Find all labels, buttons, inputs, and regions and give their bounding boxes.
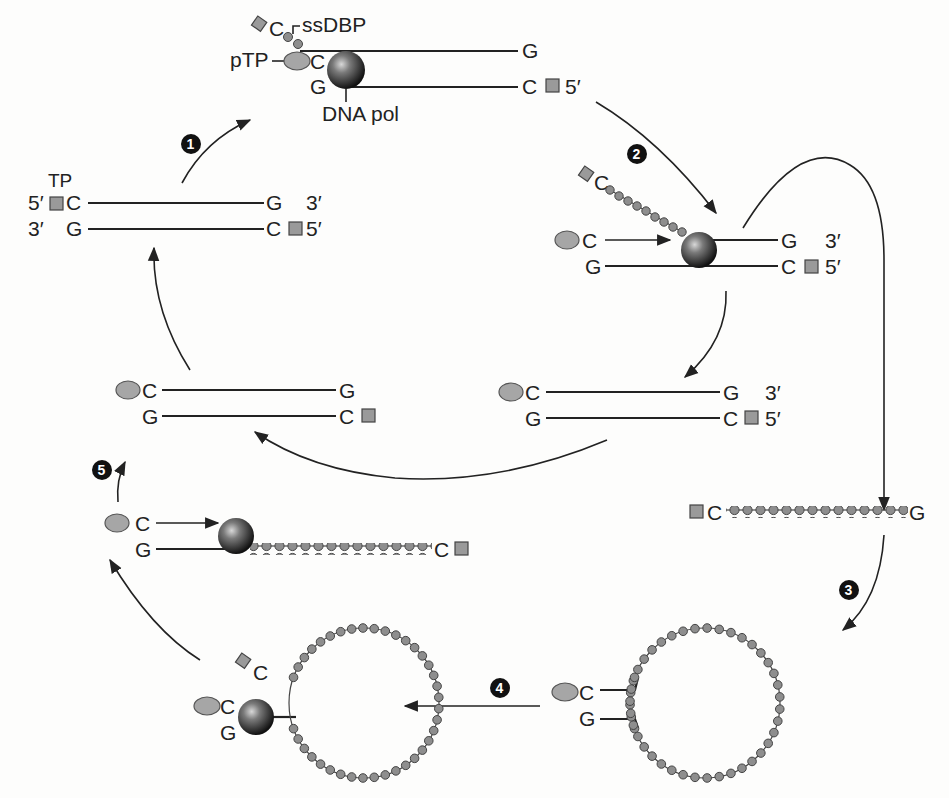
base-c-label: C xyxy=(253,661,268,684)
base-g-label: G xyxy=(522,39,538,62)
terminal-protein-icon xyxy=(578,166,593,181)
base-g-label: G xyxy=(310,75,326,98)
ptp-icon xyxy=(284,52,310,70)
base-c-label: C xyxy=(781,255,796,278)
base-g-label: G xyxy=(66,217,82,240)
daughter-duplex-right: C G 3′ G C 5′ xyxy=(499,381,781,430)
base-g-label: G xyxy=(909,501,925,524)
ssdna-beads xyxy=(726,506,908,518)
base-c-label: C xyxy=(525,381,540,404)
ssdbp-leader-line xyxy=(293,26,300,34)
base-c-label: C xyxy=(582,229,597,252)
svg-text:3: 3 xyxy=(845,582,853,598)
step-4-badge: 4 xyxy=(490,678,510,698)
terminal-protein-icon xyxy=(455,542,468,555)
dna-polymerase-icon xyxy=(681,232,717,268)
step-5-arrow xyxy=(118,462,125,502)
terminal-protein-icon xyxy=(805,260,818,273)
five-prime-label: 5′ xyxy=(825,255,841,278)
svg-text:1: 1 xyxy=(187,136,195,152)
dna-polymerase-icon xyxy=(238,699,274,735)
duplex-transfer-arrow xyxy=(255,432,607,479)
completion-arrow xyxy=(685,291,726,377)
terminal-protein-icon xyxy=(289,222,302,235)
three-prime-label: 3′ xyxy=(765,381,781,404)
displaced-strand-beads xyxy=(606,186,686,236)
base-g-label: G xyxy=(142,405,158,428)
five-prime-label: 5′ xyxy=(306,217,322,240)
ssdbp-bead-icon xyxy=(294,40,303,49)
base-c-label: C xyxy=(220,695,235,718)
ptp-icon xyxy=(555,231,579,249)
replication-cycle-diagram: C ssDBP pTP C G DNA pol G C 5′ TP 5′ C G… xyxy=(0,0,949,798)
panhandle-initiation-complex: C C G xyxy=(194,624,443,783)
base-g-label: G xyxy=(525,407,541,430)
ssdna-beads xyxy=(250,543,432,555)
terminal-protein-icon xyxy=(690,505,703,518)
panhandle-structure: C G xyxy=(552,624,784,783)
base-g-label: G xyxy=(135,538,151,561)
dna-polymerase-icon xyxy=(327,51,365,89)
terminal-protein-icon xyxy=(50,197,63,210)
elongation-complex: C C G G 3′ C 5′ xyxy=(555,166,841,278)
five-prime-label: 5′ xyxy=(765,407,781,430)
ssdbp-label: ssDBP xyxy=(302,13,366,36)
base-c-label: C xyxy=(723,407,738,430)
base-g-label: G xyxy=(781,229,797,252)
three-prime-label: 3′ xyxy=(306,191,322,214)
base-c-label: C xyxy=(434,538,449,561)
dna-polymerase-icon xyxy=(218,518,254,554)
base-c-label: C xyxy=(135,512,150,535)
tp-label: TP xyxy=(48,170,72,191)
base-g-label: G xyxy=(220,721,236,744)
displaced-single-strand: C G xyxy=(690,501,925,524)
terminal-protein-icon xyxy=(251,16,266,31)
base-c-label: C xyxy=(142,379,157,402)
terminal-protein-icon xyxy=(362,409,375,422)
ptp-icon xyxy=(194,697,220,715)
five-prime-label: 5′ xyxy=(565,75,581,98)
terminal-protein-icon xyxy=(235,653,250,668)
step-2-arrow xyxy=(596,102,716,213)
base-g-label: G xyxy=(585,255,601,278)
terminal-protein-icon xyxy=(745,411,758,424)
step-3-badge: 3 xyxy=(839,580,859,600)
parental-duplex: TP 5′ C G 3′ 3′ G C 5′ xyxy=(28,170,322,240)
three-prime-label: 3′ xyxy=(825,229,841,252)
ptp-icon xyxy=(499,383,523,401)
step-2-badge: 2 xyxy=(627,144,647,164)
three-prime-label: 3′ xyxy=(28,217,44,240)
panhandle-loop-beads xyxy=(626,624,784,783)
cycle-return-arrow xyxy=(154,248,190,370)
ptp-label: pTP xyxy=(230,48,269,71)
base-c-label: C xyxy=(310,50,325,73)
base-c-label: C xyxy=(579,681,594,704)
terminal-protein-icon xyxy=(546,79,559,92)
base-c-label: C xyxy=(339,405,354,428)
ssdbp-bead-icon xyxy=(284,33,293,42)
panhandle-loop-beads xyxy=(289,624,443,783)
base-c-label: C xyxy=(707,501,722,524)
ptp-icon xyxy=(105,514,129,532)
initiation-complex: C ssDBP pTP C G DNA pol G C 5′ xyxy=(230,13,581,125)
ptp-icon xyxy=(116,381,140,399)
reinitiation-complex: C G C xyxy=(105,512,468,561)
base-g-label: G xyxy=(579,707,595,730)
dna-pol-label: DNA pol xyxy=(322,102,399,125)
diagram-canvas: C ssDBP pTP C G DNA pol G C 5′ TP 5′ C G… xyxy=(0,0,949,798)
base-c-label: C xyxy=(66,191,81,214)
svg-text:2: 2 xyxy=(633,146,641,162)
step-5-badge: 5 xyxy=(92,460,112,480)
displaced-strand-arrow xyxy=(743,158,884,510)
base-c-label: C xyxy=(269,17,284,40)
step-1-badge: 1 xyxy=(181,134,201,154)
base-g-label: G xyxy=(339,379,355,402)
base-c-label: C xyxy=(266,217,281,240)
ptp-icon xyxy=(552,683,578,701)
daughter-duplex-left: C G G C xyxy=(116,379,375,428)
panhandle-return-arrow xyxy=(110,560,200,660)
five-prime-label: 5′ xyxy=(28,191,44,214)
base-c-label: C xyxy=(522,75,537,98)
svg-text:5: 5 xyxy=(98,462,106,478)
base-g-label: G xyxy=(266,191,282,214)
